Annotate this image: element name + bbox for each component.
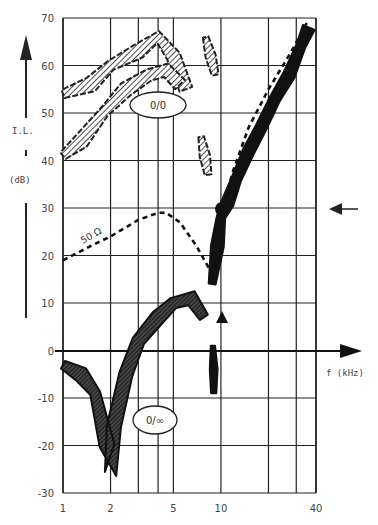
data-band-0-band	[61, 291, 208, 476]
data-point-marker	[215, 202, 229, 216]
y-tick-label: 0	[48, 346, 54, 357]
x-tick-label: 1	[60, 503, 66, 514]
data-band-fragment	[198, 136, 211, 175]
y-tick-label: -30	[38, 488, 54, 499]
arrow-left-icon	[329, 203, 342, 215]
y-tick-label: 10	[41, 298, 54, 309]
data-bands	[60, 25, 314, 476]
data-band-blob-9k	[210, 346, 218, 394]
y-tick-label: 40	[41, 156, 54, 167]
svg-text:0/0: 0/0	[150, 100, 166, 111]
annotation-0-0: 0/0	[130, 92, 186, 118]
x-axis-title: f (kHz)	[326, 368, 364, 378]
triangle-marker-icon	[216, 311, 228, 323]
y-axis-unit: (dB)	[9, 175, 31, 185]
x-tick-label: 2	[107, 503, 113, 514]
svg-text:0/∞: 0/∞	[146, 415, 164, 426]
y-axis-label: I.L. (dB)	[9, 35, 34, 318]
insertion-loss-chart: 706050403020100-10-20-30 1251040 I.L. (d…	[0, 0, 378, 525]
y-tick-label: 70	[41, 13, 54, 24]
y-tick-label: 60	[41, 61, 54, 72]
arrow-up-icon	[20, 35, 32, 60]
y-tick-label: 50	[41, 108, 54, 119]
annotation-0-infinity: 0/∞	[133, 406, 177, 434]
x-tick-label: 5	[170, 503, 176, 514]
y-tick-label: 30	[41, 203, 54, 214]
data-band-measured-band-solid-high-frequency-	[209, 25, 315, 285]
data-band-fragment	[203, 36, 219, 76]
y-axis-title: I.L.	[12, 126, 34, 136]
arrow-right-icon	[340, 344, 362, 358]
x-tick-label: 40	[310, 503, 323, 514]
y-tick-label: 20	[41, 251, 54, 262]
x-tick-label: 10	[215, 503, 228, 514]
x-axis-ticks: 1251040	[60, 503, 323, 514]
y-tick-label: -10	[38, 393, 54, 404]
y-tick-label: -20	[38, 441, 54, 452]
y-axis-ticks: 706050403020100-10-20-30	[38, 13, 54, 499]
level-marker-arrow	[329, 203, 358, 215]
